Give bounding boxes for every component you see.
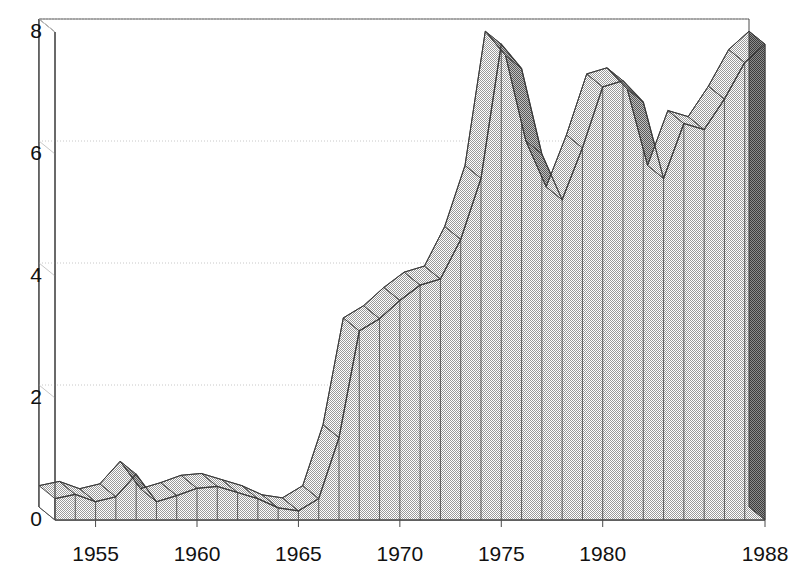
x-axis-tick-label: 1960 (162, 542, 232, 566)
y-axis-tick-label: 8 (8, 19, 42, 43)
y-axis-tick-label: 6 (8, 141, 42, 165)
x-axis-tick-label: 1970 (365, 542, 435, 566)
y-axis-tick-label: 0 (8, 507, 42, 531)
x-axis-tick-label: 1975 (466, 542, 536, 566)
x-axis-tick-label: 1988 (730, 542, 799, 566)
y-axis-tick-label: 4 (8, 263, 42, 287)
x-axis-tick-label: 1955 (61, 542, 131, 566)
x-axis-tick-label: 1980 (568, 542, 638, 566)
y-axis-tick-label: 2 (8, 385, 42, 409)
chart-container: 86420 1955196019651970197519801988 (0, 0, 799, 584)
area-chart-plot (0, 0, 799, 584)
x-axis-tick-label: 1965 (263, 542, 333, 566)
